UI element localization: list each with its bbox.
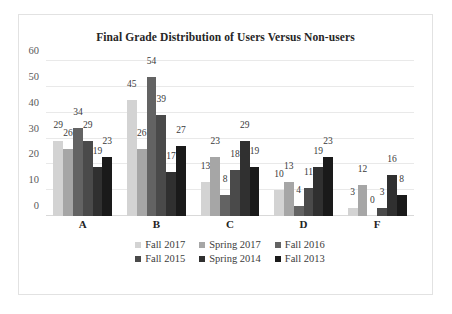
y-axis-tick-label: 40 (29, 96, 40, 107)
legend-label: Fall 2015 (145, 253, 185, 264)
bar[interactable] (127, 100, 137, 216)
bar-groups: 2926342919234526543917271323818291910134… (46, 61, 414, 216)
bar-slot: 10 (274, 61, 284, 216)
legend-item[interactable]: Fall 2016 (275, 239, 325, 250)
bar-slot: 8 (397, 61, 407, 216)
bar[interactable] (304, 188, 314, 216)
bar-group: 452654391727 (120, 61, 194, 216)
bar-value-label: 10 (274, 170, 284, 180)
bar-slot: 3 (348, 61, 358, 216)
bar[interactable] (358, 185, 368, 216)
bar-slot: 45 (127, 61, 137, 216)
bar-slot: 23 (210, 61, 220, 216)
bar-slot: 23 (102, 61, 112, 216)
bar-value-label: 19 (250, 147, 260, 157)
bar[interactable] (210, 157, 220, 216)
bar[interactable] (323, 157, 333, 216)
bar[interactable] (387, 175, 397, 216)
bar-slot: 26 (137, 61, 147, 216)
bar[interactable] (313, 167, 323, 216)
legend-label: Spring 2014 (209, 253, 261, 264)
bar[interactable] (93, 167, 103, 216)
bar-slot: 26 (63, 61, 73, 216)
bar-slot: 11 (304, 61, 314, 216)
bar[interactable] (348, 208, 358, 216)
legend-label: Spring 2017 (209, 239, 261, 250)
bar[interactable] (156, 115, 166, 216)
bar-value-label: 16 (387, 155, 397, 165)
y-axis-tick-label: 30 (29, 122, 40, 133)
bar-slot: 23 (323, 61, 333, 216)
y-axis-tick-label: 20 (29, 148, 40, 159)
legend-item[interactable]: Spring 2014 (199, 253, 261, 264)
chart-frame: Final Grade Distribution of Users Versus… (18, 14, 433, 295)
bar[interactable] (230, 170, 240, 217)
bar[interactable] (176, 146, 186, 216)
bar-value-label: 4 (296, 186, 301, 196)
bar-value-label: 19 (314, 147, 324, 157)
bar-slot: 18 (230, 61, 240, 216)
x-axis-category-label: D (267, 218, 341, 230)
legend-row: Fall 2015Spring 2014Fall 2013 (46, 253, 414, 264)
bar[interactable] (53, 141, 63, 216)
bar[interactable] (166, 172, 176, 216)
bar-value-label: 18 (230, 150, 240, 160)
legend-label: Fall 2016 (285, 239, 325, 250)
bar-value-label: 26 (63, 129, 73, 139)
bar-slot: 39 (156, 61, 166, 216)
legend-swatch-icon (199, 242, 205, 248)
plot-area: 0102030405060 29263429192345265439172713… (46, 61, 414, 216)
bar[interactable] (147, 77, 157, 217)
legend-label: Fall 2013 (285, 253, 325, 264)
bar-slot: 12 (358, 61, 368, 216)
bar-value-label: 0 (370, 196, 375, 206)
legend-item[interactable]: Fall 2017 (135, 239, 185, 250)
x-axis-category-label: B (120, 218, 194, 230)
bar-slot: 29 (53, 61, 63, 216)
bar-value-label: 19 (93, 147, 103, 157)
bar-value-label: 13 (201, 162, 211, 172)
bar-value-label: 29 (54, 121, 64, 131)
bar-slot: 29 (240, 61, 250, 216)
bar[interactable] (284, 182, 294, 216)
bar-group-bars: 292634291923 (53, 61, 112, 216)
y-axis-tick-label: 0 (34, 200, 39, 211)
bar[interactable] (377, 208, 387, 216)
chart-legend: Fall 2017Spring 2017Fall 2016Fall 2015Sp… (46, 239, 414, 267)
bar-group: 292634291923 (46, 61, 120, 216)
legend-item[interactable]: Fall 2013 (275, 253, 325, 264)
bar-value-label: 29 (240, 121, 250, 131)
legend-item[interactable]: Fall 2015 (135, 253, 185, 264)
bar[interactable] (240, 141, 250, 216)
bar[interactable] (274, 190, 284, 216)
bar[interactable] (220, 195, 230, 216)
bar[interactable] (63, 149, 73, 216)
bar-value-label: 3 (350, 188, 355, 198)
bar[interactable] (397, 195, 407, 216)
bar-slot: 54 (147, 61, 157, 216)
bar-value-label: 13 (284, 162, 294, 172)
bar-value-label: 23 (103, 137, 113, 147)
legend-swatch-icon (275, 242, 281, 248)
bar-value-label: 23 (211, 137, 221, 147)
bar[interactable] (73, 128, 83, 216)
bar-slot: 29 (83, 61, 93, 216)
bar-slot: 16 (387, 61, 397, 216)
bar-value-label: 11 (304, 168, 313, 178)
legend-swatch-icon (199, 256, 205, 262)
chart-title: Final Grade Distribution of Users Versus… (19, 31, 432, 43)
legend-swatch-icon (135, 256, 141, 262)
bar-value-label: 29 (83, 121, 93, 131)
legend-swatch-icon (135, 242, 141, 248)
bar[interactable] (83, 141, 93, 216)
bar[interactable] (137, 149, 147, 216)
bar-value-label: 8 (223, 175, 228, 185)
bar-value-label: 26 (137, 129, 147, 139)
bar[interactable] (102, 157, 112, 216)
bar[interactable] (250, 167, 260, 216)
x-axis-category-label: C (193, 218, 267, 230)
legend-item[interactable]: Spring 2017 (199, 239, 261, 250)
y-axis-tick-label: 10 (29, 174, 40, 185)
bar[interactable] (201, 182, 211, 216)
bar[interactable] (294, 206, 304, 216)
